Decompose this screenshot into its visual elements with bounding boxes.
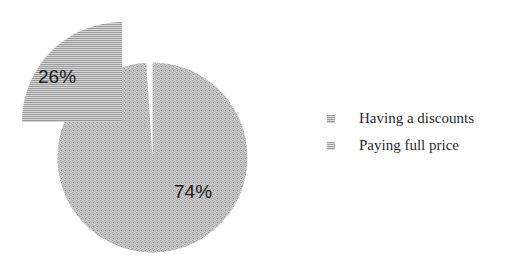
legend-item-having-a-discounts[interactable]: Having a discounts <box>327 105 512 132</box>
legend-label-having-a-discounts: Having a discounts <box>359 111 474 126</box>
pie-chart-svg <box>0 0 270 261</box>
legend-swatch-icon-paying-full-price <box>327 142 335 150</box>
slice-value-label-large: 74% <box>174 181 212 203</box>
pie-chart-figure: 26% 74% Having a discounts Paying full p… <box>0 0 517 261</box>
legend-item-paying-full-price[interactable]: Paying full price <box>327 132 512 159</box>
slice-value-label-small: 26% <box>38 66 76 88</box>
chart-plot-area: 26% 74% <box>0 0 270 261</box>
legend-label-paying-full-price: Paying full price <box>359 138 459 153</box>
legend-swatch-icon-having-a-discounts <box>327 115 335 123</box>
chart-legend: Having a discounts Paying full price <box>327 105 512 159</box>
